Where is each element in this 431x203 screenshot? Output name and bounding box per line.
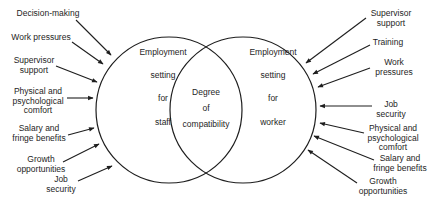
factor-work-pressures: Work pressures: [9, 33, 73, 43]
arrow-decision-making: [76, 20, 111, 55]
arrow-salary: [68, 128, 94, 135]
r-factor-training: Training: [368, 38, 408, 48]
compatibility-label: Degree of compatibility: [176, 87, 236, 129]
arrow-r-training: [313, 45, 370, 74]
arrow-job-security: [78, 166, 112, 181]
r-factor-supervisor-support: Supervisor support: [368, 9, 414, 28]
r-factor-physical-comfort: Physical and psychological comfort: [366, 124, 420, 153]
arrow-work-pressures: [72, 42, 103, 64]
arrow-supervisor-support: [56, 66, 97, 82]
arrow-r-physical-comfort: [320, 123, 364, 133]
factor-supervisor-support: Supervisor support: [12, 56, 56, 75]
factor-salary: Salary and fringe benefits: [10, 124, 68, 143]
arrow-growth: [63, 144, 99, 162]
arrow-r-supervisor-support: [306, 18, 366, 63]
arrow-r-salary: [314, 136, 374, 160]
right-arrows: [306, 18, 374, 183]
worker-setting-label: Employment setting for worker: [238, 47, 308, 127]
factor-physical-comfort: Physical and psychological comfort: [12, 87, 64, 116]
r-factor-job-security: Job security: [373, 100, 409, 119]
factor-decision-making: Decision-making: [16, 9, 80, 19]
r-factor-growth: Growth opportunities: [356, 177, 410, 196]
arrow-r-growth: [308, 150, 357, 183]
r-factor-work-pressures: Work pressures: [372, 58, 416, 77]
factor-growth: Growth opportunities: [16, 155, 66, 174]
arrow-r-work-pressures: [318, 68, 370, 87]
factor-job-security: Job security: [44, 175, 78, 194]
r-factor-salary: Salary and fringe benefits: [370, 154, 430, 173]
